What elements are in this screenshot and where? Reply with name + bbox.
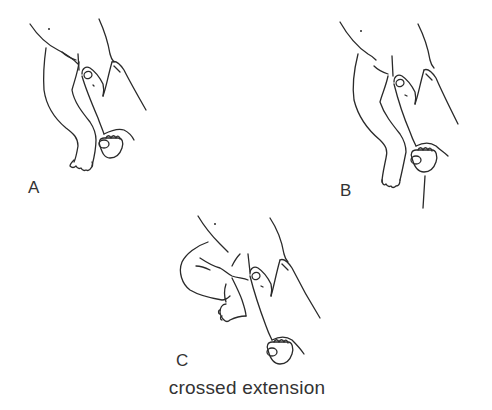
panel-b-label: B	[340, 182, 351, 199]
panel-c-label: C	[176, 352, 188, 369]
panel-c: C	[150, 200, 350, 370]
panel-b: B	[280, 0, 492, 215]
figure-caption: crossed extension	[0, 377, 492, 399]
panel-a: A	[0, 0, 250, 210]
panel-c-illustration	[150, 200, 350, 370]
panel-b-illustration	[280, 0, 492, 215]
caption-text: crossed extension	[169, 377, 326, 398]
crossed-extension-figure: A	[0, 0, 492, 410]
panel-a-label: A	[28, 179, 39, 196]
